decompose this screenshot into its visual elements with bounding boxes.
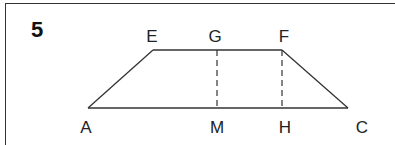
trapezoid-diagram [0, 0, 395, 145]
label-f: F [279, 27, 289, 47]
segment-fc [282, 50, 348, 108]
label-h: H [279, 118, 291, 138]
label-a: A [80, 118, 91, 138]
label-g: G [208, 27, 221, 47]
label-m: M [210, 118, 224, 138]
label-e: E [146, 27, 157, 47]
segment-ae [88, 50, 153, 108]
label-c: C [356, 118, 368, 138]
